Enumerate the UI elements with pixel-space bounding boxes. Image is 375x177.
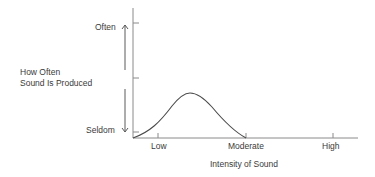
x-axis-title: Intensity of Sound: [210, 160, 278, 169]
y-label-seldom: Seldom: [86, 126, 115, 135]
y-axis-title-line2: Sound Is Produced: [20, 79, 92, 88]
frequency-curve: [133, 93, 246, 138]
x-label-moderate: Moderate: [228, 142, 264, 151]
y-axis-title-line1: How Often: [20, 68, 60, 77]
y-label-often: Often: [95, 23, 116, 32]
chart-canvas: [0, 0, 375, 177]
x-label-high: High: [322, 142, 339, 151]
x-label-low: Low: [151, 142, 167, 151]
